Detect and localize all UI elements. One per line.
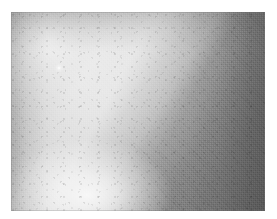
bright-speck-marker [57,66,61,70]
radiographic-image-plate [11,12,265,211]
image-page [0,0,277,219]
film-grain-texture-layer [11,12,265,211]
